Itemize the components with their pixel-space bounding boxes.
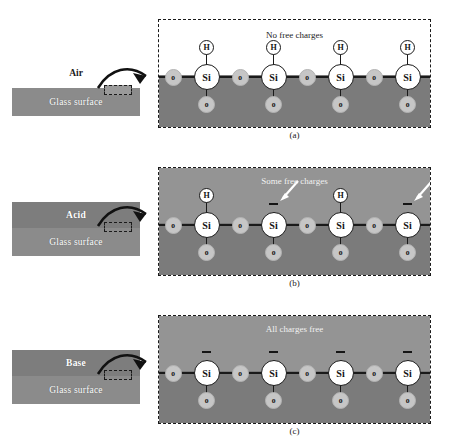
oxygen-atom-lower: o xyxy=(265,244,282,261)
hydrogen-atom: H xyxy=(266,40,281,55)
silicon-atom: Si xyxy=(395,212,421,238)
oxygen-atom-lower: o xyxy=(332,244,349,261)
silicon-atom: Si xyxy=(395,64,421,90)
hydrogen-atom: H xyxy=(333,40,348,55)
oxygen-atom: o xyxy=(299,217,316,234)
hydrogen-atom: H xyxy=(333,188,348,203)
macroscopic-view-c: Base Glass surface xyxy=(0,296,155,426)
zoom-box-a: No free charges oSioHoSioHoSioHoSioHo xyxy=(158,19,431,128)
hydrogen-atom: H xyxy=(199,188,214,203)
caption-c: (c) xyxy=(158,426,431,436)
panel-a: Air Glass surface No free charges oSioHo… xyxy=(0,0,451,145)
headline-b: Some free charges xyxy=(159,176,430,186)
hydrogen-atom: H xyxy=(199,40,214,55)
silicon-atom: Si xyxy=(328,212,354,238)
oxygen-atom-lower: o xyxy=(265,392,282,409)
oxygen-atom: o xyxy=(165,69,182,86)
silicon-atom: Si xyxy=(261,64,287,90)
oxygen-atom-lower: o xyxy=(332,392,349,409)
callout-arrow-c xyxy=(96,344,160,404)
callout-arrow-b xyxy=(96,196,160,256)
caption-b: (b) xyxy=(158,278,431,288)
oxygen-atom: o xyxy=(232,69,249,86)
hydrogen-atom: H xyxy=(400,40,415,55)
macroscopic-view-b: Acid Glass surface xyxy=(0,148,155,278)
oxygen-atom: o xyxy=(165,217,182,234)
oxygen-atom: o xyxy=(299,365,316,382)
negative-charge-mark xyxy=(403,203,412,205)
silicon-atom: Si xyxy=(328,64,354,90)
oxygen-atom: o xyxy=(232,217,249,234)
negative-charge-mark xyxy=(336,351,345,353)
headline-a: No free charges xyxy=(159,30,430,40)
panel-c: Base Glass surface All charges free oSio… xyxy=(0,296,451,441)
oxygen-atom-lower: o xyxy=(198,244,215,261)
oxygen-atom: o xyxy=(299,69,316,86)
oxygen-atom: o xyxy=(366,217,383,234)
panel-b: Acid Glass surface Some free charges oSi… xyxy=(0,148,451,293)
oxygen-atom: o xyxy=(232,365,249,382)
oxygen-atom-lower: o xyxy=(399,96,416,113)
oxygen-atom-lower: o xyxy=(265,96,282,113)
oxygen-atom-lower: o xyxy=(332,96,349,113)
oxygen-atom-lower: o xyxy=(198,96,215,113)
silicon-atom: Si xyxy=(395,360,421,386)
negative-charge-mark xyxy=(202,351,211,353)
caption-a: (a) xyxy=(158,130,431,140)
oxygen-atom: o xyxy=(165,365,182,382)
zoom-box-b: Some free charges oSioHoSiooSioHoSioo xyxy=(158,167,431,276)
oxygen-atom: o xyxy=(366,69,383,86)
oxygen-atom-lower: o xyxy=(399,392,416,409)
zoom-box-c: All charges free oSiooSiooSiooSioo xyxy=(158,315,431,424)
headline-c: All charges free xyxy=(159,324,430,334)
silicon-atom: Si xyxy=(194,212,220,238)
oxygen-atom-lower: o xyxy=(198,392,215,409)
silicon-atom: Si xyxy=(261,212,287,238)
macroscopic-view-a: Air Glass surface xyxy=(0,0,155,130)
callout-arrow-a xyxy=(96,58,160,118)
silicon-atom: Si xyxy=(194,360,220,386)
negative-charge-mark xyxy=(269,351,278,353)
negative-charge-mark xyxy=(269,203,278,205)
silicon-atom: Si xyxy=(328,360,354,386)
silicon-atom: Si xyxy=(261,360,287,386)
silicon-atom: Si xyxy=(194,64,220,90)
oxygen-atom: o xyxy=(366,365,383,382)
negative-charge-mark xyxy=(403,351,412,353)
oxygen-atom-lower: o xyxy=(399,244,416,261)
